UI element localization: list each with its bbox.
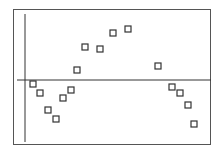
data-point (177, 90, 183, 96)
data-points (30, 26, 197, 127)
data-point (60, 95, 66, 101)
data-point (125, 26, 131, 32)
data-point (37, 90, 43, 96)
data-point (191, 121, 197, 127)
data-point (169, 84, 175, 90)
scatter-plot (0, 0, 224, 154)
data-point (30, 81, 36, 87)
data-point (110, 30, 116, 36)
data-point (155, 63, 161, 69)
data-point (74, 67, 80, 73)
data-point (53, 116, 59, 122)
data-point (97, 46, 103, 52)
data-point (68, 87, 74, 93)
data-point (185, 102, 191, 108)
data-point (45, 107, 51, 113)
data-point (82, 44, 88, 50)
